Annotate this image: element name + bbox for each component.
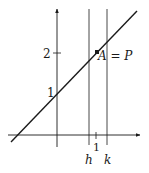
point-a-label: A = P [97, 49, 133, 63]
label-k: k [104, 153, 111, 167]
diagram-canvas: 2 1 1 h k A = P [0, 0, 149, 173]
y-tick-label-1: 1 [47, 86, 55, 100]
x-tick-label-1: 1 [93, 141, 100, 154]
y-tick-label-2: 2 [43, 47, 51, 61]
label-h: h [85, 153, 93, 167]
graph-line [11, 11, 137, 142]
